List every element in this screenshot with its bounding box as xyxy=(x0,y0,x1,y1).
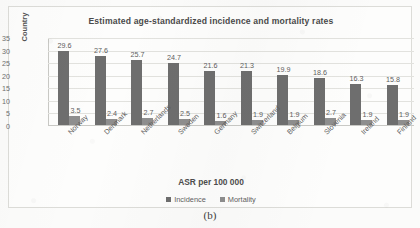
bar-group: 21.61.6 xyxy=(195,38,232,125)
y-axis-tick-label: 20 xyxy=(0,71,10,80)
y-axis-tick-label: 35 xyxy=(0,34,10,43)
bar-value-label: 16.3 xyxy=(343,74,369,83)
legend-swatch-icon xyxy=(220,197,225,202)
x-axis-label-cell: Germany xyxy=(195,128,232,170)
legend-swatch-icon xyxy=(166,197,171,202)
legend-label: Mortality xyxy=(228,195,256,204)
x-axis-label-cell: Belgium xyxy=(269,128,306,170)
bar-group: 15.81.9 xyxy=(378,38,415,125)
y-axis-tick-label: 10 xyxy=(0,96,10,105)
x-axis-label-cell: Netherlands xyxy=(122,128,159,170)
figure-b: Estimated age-standardized incidence and… xyxy=(0,0,420,228)
y-axis-tick-label: 0 xyxy=(0,122,10,131)
bar-value-label: 15.8 xyxy=(380,75,406,84)
x-axis-label-cell: Sweden xyxy=(159,128,196,170)
x-axis-label-cell: Finland xyxy=(378,128,415,170)
y-axis-title: Country xyxy=(20,0,29,57)
legend-label: Incidence xyxy=(174,195,206,204)
bar-value-label: 24.7 xyxy=(161,53,187,62)
x-axis-category-labels: NorwayDenmarkNetherlandsSwedenGermanySwi… xyxy=(49,128,415,170)
x-axis-label-cell: Switzerland xyxy=(232,128,269,170)
bar-group: 25.72.7 xyxy=(122,38,159,125)
bar-group: 16.31.9 xyxy=(341,38,378,125)
y-axis-tick-label: 25 xyxy=(0,59,10,68)
x-axis-label-cell: Slovenia xyxy=(305,128,342,170)
bar-value-label: 18.6 xyxy=(307,68,333,77)
figure-caption: (b) xyxy=(0,209,420,221)
bar-value-label: 25.7 xyxy=(124,50,150,59)
bar-value-label: 27.6 xyxy=(88,46,114,55)
bar-group: 27.62.4 xyxy=(86,38,123,125)
y-axis-tick-label: 30 xyxy=(0,46,10,55)
x-axis-title: ASR per 100 000 xyxy=(9,177,413,187)
chart-frame: Estimated age-standardized incidence and… xyxy=(8,6,412,208)
legend: IncidenceMortality xyxy=(9,195,413,204)
legend-item-mortality[interactable]: Mortality xyxy=(220,195,256,204)
y-axis-tick-label: 15 xyxy=(0,84,10,93)
bar-value-label: 19.9 xyxy=(270,65,296,74)
x-axis-label-cell: Ireland xyxy=(342,128,379,170)
bar-group: 18.62.7 xyxy=(305,38,342,125)
bar-incidence[interactable] xyxy=(314,78,325,125)
legend-item-incidence[interactable]: Incidence xyxy=(166,195,206,204)
x-axis-label-cell: Denmark xyxy=(86,128,123,170)
y-axis-tick-label: 5 xyxy=(0,109,10,118)
bar-value-label: 29.6 xyxy=(51,41,77,50)
bar-value-label: 21.6 xyxy=(197,61,223,70)
chart-title: Estimated age-standardized incidence and… xyxy=(9,16,413,26)
x-axis-baseline xyxy=(48,125,414,126)
bar-group: 29.63.5 xyxy=(49,38,86,125)
bar-value-label: 21.3 xyxy=(234,61,260,70)
x-axis-label-cell: Norway xyxy=(49,128,86,170)
